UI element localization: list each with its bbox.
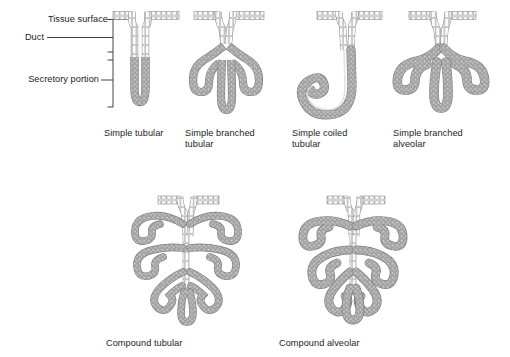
- secretory-branches: [193, 46, 259, 110]
- main-duct-lumen-left: [180, 196, 186, 236]
- gland-compound-tubular: [135, 196, 238, 322]
- tissue-surface-epithelium: [317, 12, 382, 20]
- tissue-surface-epithelium: [409, 12, 476, 20]
- gland-types-figure: Tissue surface Duct Secretory portion Si…: [0, 0, 510, 357]
- gland-simple-tubular: [113, 12, 179, 103]
- duct-lumen-right: [146, 12, 149, 57]
- leader-lines-group: [47, 20, 128, 108]
- gland-diagram-svg: [0, 0, 510, 357]
- tissue-surface-epithelium: [194, 12, 264, 20]
- duct-lumen-left: [339, 12, 344, 50]
- caption-compound-alveolar: Compound alveolar: [279, 338, 414, 349]
- duct-lumen-left: [218, 12, 224, 44]
- alveolus-center: [434, 62, 448, 108]
- duct-label: Duct: [0, 32, 44, 43]
- gland-simple-coiled-tubular: [302, 12, 382, 115]
- caption-compound-tubular: Compound tubular: [106, 338, 236, 349]
- alveolus-bottom-center: [346, 288, 360, 320]
- alveoli-group: [397, 48, 484, 108]
- caption-simple-tubular: Simple tubular: [104, 128, 184, 139]
- secretory-portion-label: Secretory portion: [0, 74, 99, 85]
- caption-simple-branched-alveolar: Simple branched alveolar: [393, 128, 485, 151]
- tissue-surface-epithelium: [327, 196, 385, 204]
- tissue-surface-epithelium: [158, 196, 219, 204]
- duct-lumen-left: [132, 12, 135, 57]
- caption-simple-branched-tubular: Simple branched tubular: [185, 128, 277, 151]
- secretory-branch-center: [221, 60, 232, 110]
- gland-simple-branched-alveolar: [397, 12, 484, 109]
- secretory-body: [135, 57, 146, 102]
- duct-lumen-left: [433, 12, 439, 46]
- caption-simple-coiled-tubular: Simple coiled tubular: [292, 128, 374, 151]
- gland-simple-branched-tubular: [193, 12, 264, 111]
- gland-compound-alveolar: [303, 196, 403, 320]
- tubule-bottom-center: [181, 292, 193, 322]
- tissue-surface-label: Tissue surface: [0, 14, 108, 25]
